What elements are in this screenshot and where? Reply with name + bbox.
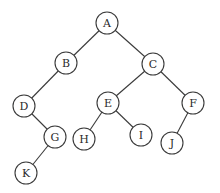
node-label: G	[51, 131, 60, 144]
node-label: F	[189, 97, 197, 110]
node-label: C	[149, 58, 157, 71]
node-label: A	[102, 17, 112, 30]
tree-nodes: ABCDEFGHIJK	[13, 12, 204, 184]
tree-node-a: A	[96, 12, 118, 34]
tree-node-h: H	[73, 128, 95, 150]
tree-node-j: J	[161, 132, 183, 154]
tree-node-k: K	[15, 162, 37, 184]
tree-node-d: D	[13, 95, 35, 117]
node-label: J	[169, 137, 174, 150]
tree-node-c: C	[142, 53, 164, 75]
node-label: H	[79, 133, 89, 146]
tree-node-g: G	[44, 126, 66, 148]
tree-node-e: E	[97, 92, 119, 114]
binary-tree-diagram: ABCDEFGHIJK	[0, 0, 220, 193]
tree-node-f: F	[182, 92, 204, 114]
node-label: B	[62, 57, 70, 70]
node-label: D	[20, 100, 29, 113]
node-label: E	[104, 97, 112, 110]
tree-node-b: B	[55, 52, 77, 74]
node-label: I	[139, 129, 143, 142]
tree-node-i: I	[130, 124, 152, 146]
node-label: K	[22, 167, 31, 180]
